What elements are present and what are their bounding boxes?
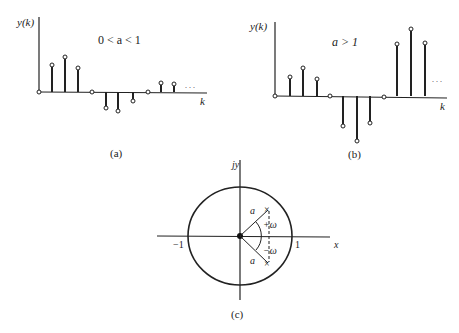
minus-one-tick-label: −1 — [173, 239, 184, 250]
panel-c-x-axis-label: x — [333, 239, 339, 250]
stem-marker — [341, 124, 345, 128]
stem-marker — [131, 99, 135, 103]
stem-marker — [76, 66, 80, 70]
panel-c-y-axis-label: jy — [230, 159, 240, 170]
panel-c-x-axis — [157, 236, 330, 237]
panel-a-caption: (a) — [110, 147, 123, 160]
panel-a-ylabel: y(k) — [16, 16, 34, 29]
stem-marker — [116, 109, 120, 113]
panel-b-ellipsis: . . . — [432, 75, 442, 84]
upper-pole-marker: × — [264, 204, 270, 215]
lower-pole-marker: × — [264, 258, 270, 269]
panel-b-ylabel: y(k) — [249, 20, 267, 33]
minus-omega-label: −ω — [263, 245, 277, 256]
figure-canvas: y(k) 0 < a < 1 k . . . (a) y(k) a > 1 k … — [0, 0, 459, 333]
stem-marker — [159, 81, 163, 85]
panel-b-condition: a > 1 — [332, 35, 358, 49]
panel-b-x-axis — [275, 96, 447, 98]
panel-b-stem-plot: y(k) a > 1 k . . . (b) — [249, 20, 447, 161]
panel-a-condition: 0 < a < 1 — [98, 33, 141, 47]
panel-c-unit-circle: × × a a +ω −ω jy x −1 1 (c) — [157, 159, 339, 321]
stem-marker — [37, 90, 41, 94]
panel-a-xlabel: k — [200, 95, 206, 107]
stem-marker — [63, 55, 67, 59]
panel-b-caption: (b) — [348, 148, 361, 161]
panel-a-stems — [37, 55, 176, 113]
stem-marker — [368, 121, 372, 125]
stem-marker — [104, 106, 108, 110]
panel-a-stem-plot: y(k) 0 < a < 1 k . . . (a) — [16, 16, 207, 160]
panel-c-caption: (c) — [231, 308, 244, 321]
panel-b-xlabel: k — [440, 100, 446, 112]
stem-marker — [382, 95, 386, 99]
stem-marker — [146, 90, 150, 94]
stem-marker — [90, 90, 94, 94]
stem-marker — [423, 41, 427, 45]
stem-marker — [355, 139, 359, 143]
stem-marker — [50, 63, 54, 67]
stem-marker — [273, 94, 277, 98]
stem-marker — [395, 42, 399, 46]
stem-marker — [328, 94, 332, 98]
upper-radius-label: a — [250, 205, 255, 216]
stem-marker — [409, 27, 413, 31]
stem-marker — [288, 75, 292, 79]
one-tick-label: 1 — [295, 239, 300, 250]
stem-marker — [172, 82, 176, 86]
stem-marker — [301, 66, 305, 70]
plus-omega-label: +ω — [263, 219, 277, 230]
panel-a-x-axis — [39, 92, 207, 93]
lower-radius-label: a — [250, 255, 255, 266]
panel-a-ellipsis: . . . — [185, 81, 195, 90]
stem-marker — [315, 77, 319, 81]
